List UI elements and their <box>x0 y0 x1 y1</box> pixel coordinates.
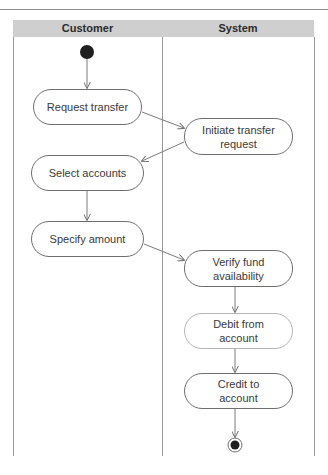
activity-credit-to-account: Credit to account <box>184 373 293 409</box>
activity-debit-from-account: Debit from account <box>184 313 293 349</box>
edge-specify-to-verify <box>144 244 184 260</box>
activity-verify-fund-availability: Verify fund availability <box>184 250 293 287</box>
activity-specify-amount: Specify amount <box>31 221 144 257</box>
start-node <box>80 45 94 59</box>
edge-request-to-initiate <box>142 112 184 128</box>
activity-label: Request transfer <box>47 100 128 114</box>
activity-initiate-transfer-request: Initiate transfer request <box>184 118 293 155</box>
edge-initiate-to-select <box>142 142 184 161</box>
activity-select-accounts: Select accounts <box>31 155 144 191</box>
activity-label: Verify fund availability <box>213 255 265 283</box>
activity-label: Initiate transfer request <box>202 123 275 151</box>
activity-label: Select accounts <box>49 166 127 180</box>
activity-request-transfer: Request transfer <box>33 89 142 125</box>
end-node-core <box>231 441 240 450</box>
activity-label: Credit to account <box>218 377 260 405</box>
activity-label: Specify amount <box>50 232 126 246</box>
activity-label: Debit from account <box>213 317 264 345</box>
